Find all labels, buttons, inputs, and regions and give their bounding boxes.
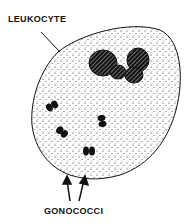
arrows [63, 176, 88, 201]
leukocyte-pointer-line [41, 32, 60, 52]
leukocyte-diagram [0, 0, 184, 224]
